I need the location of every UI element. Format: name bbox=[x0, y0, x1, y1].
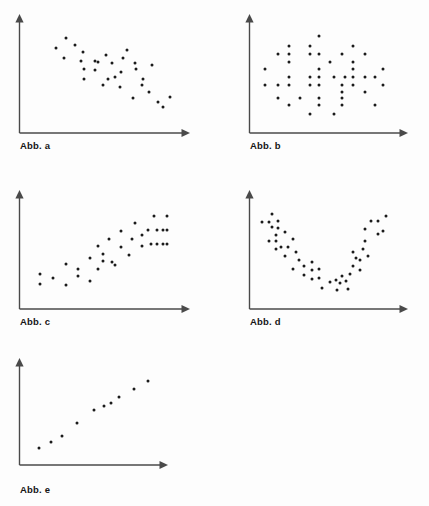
data-point bbox=[280, 246, 283, 249]
data-point bbox=[102, 83, 105, 86]
data-point bbox=[352, 68, 355, 71]
data-point bbox=[277, 83, 280, 86]
data-point bbox=[96, 268, 99, 271]
data-point bbox=[333, 75, 336, 78]
panel-caption-a: Abb. a bbox=[20, 140, 50, 151]
data-point bbox=[277, 52, 280, 55]
data-point bbox=[274, 234, 277, 237]
data-point bbox=[102, 259, 105, 262]
scatter-plot-panel-a bbox=[18, 14, 190, 133]
data-point bbox=[274, 248, 277, 251]
data-point bbox=[333, 112, 336, 115]
data-point bbox=[161, 228, 164, 231]
data-point bbox=[369, 219, 372, 222]
data-point bbox=[341, 83, 344, 86]
data-point bbox=[308, 83, 311, 86]
scatter-plot-panel-e bbox=[18, 358, 168, 465]
data-point bbox=[169, 96, 172, 99]
data-point bbox=[89, 256, 92, 259]
data-point bbox=[267, 220, 270, 223]
data-point bbox=[38, 283, 41, 286]
data-point bbox=[359, 258, 362, 261]
data-point bbox=[284, 230, 287, 233]
data-point bbox=[132, 97, 135, 100]
data-point bbox=[288, 104, 291, 107]
data-point bbox=[83, 68, 86, 71]
data-point bbox=[308, 44, 311, 47]
data-point bbox=[49, 440, 52, 443]
data-point bbox=[345, 280, 348, 283]
data-point bbox=[80, 60, 83, 63]
data-point bbox=[346, 287, 349, 290]
data-point bbox=[267, 240, 270, 243]
data-point bbox=[288, 75, 291, 78]
data-point bbox=[341, 90, 344, 93]
data-point bbox=[102, 405, 105, 408]
data-point bbox=[166, 243, 169, 246]
data-point bbox=[110, 401, 113, 404]
data-point bbox=[318, 52, 321, 55]
data-point bbox=[166, 215, 169, 218]
data-point bbox=[114, 75, 117, 78]
data-point bbox=[132, 387, 135, 390]
data-point bbox=[318, 35, 321, 38]
data-point bbox=[133, 221, 136, 224]
data-point bbox=[382, 83, 385, 86]
data-point bbox=[161, 106, 164, 109]
data-point bbox=[261, 220, 264, 223]
data-point bbox=[263, 68, 266, 71]
data-point bbox=[93, 69, 96, 72]
data-point bbox=[329, 281, 332, 284]
data-point bbox=[108, 238, 111, 241]
data-point bbox=[318, 104, 321, 107]
data-point bbox=[318, 268, 321, 271]
data-point bbox=[318, 83, 321, 86]
data-point bbox=[338, 282, 341, 285]
data-points-layer-c bbox=[18, 190, 190, 309]
data-points-layer-b bbox=[248, 14, 408, 133]
data-points-layer-a bbox=[18, 14, 190, 133]
data-point bbox=[364, 52, 367, 55]
data-point bbox=[297, 258, 300, 261]
data-point bbox=[146, 379, 149, 382]
scatter-plot-panel-b bbox=[248, 14, 408, 133]
data-points-layer-d bbox=[248, 190, 408, 309]
data-point bbox=[334, 279, 337, 282]
data-point bbox=[120, 229, 123, 232]
data-point bbox=[318, 97, 321, 100]
data-point bbox=[74, 43, 77, 46]
data-point bbox=[52, 277, 55, 280]
scatter-plot-panel-c bbox=[18, 190, 190, 309]
data-point bbox=[38, 273, 41, 276]
data-point bbox=[263, 83, 266, 86]
data-point bbox=[135, 68, 138, 71]
data-point bbox=[308, 112, 311, 115]
data-point bbox=[111, 62, 114, 65]
data-point bbox=[55, 46, 58, 49]
data-point bbox=[76, 421, 79, 424]
data-point bbox=[352, 250, 355, 253]
data-point bbox=[382, 68, 385, 71]
data-point bbox=[155, 243, 158, 246]
data-point bbox=[140, 234, 143, 237]
data-point bbox=[120, 71, 123, 74]
data-point bbox=[277, 219, 280, 222]
data-point bbox=[61, 435, 64, 438]
data-point bbox=[320, 286, 323, 289]
data-point bbox=[284, 254, 287, 257]
data-point bbox=[344, 75, 347, 78]
data-point bbox=[77, 275, 80, 278]
data-points-layer-e bbox=[18, 358, 168, 465]
data-point bbox=[126, 48, 129, 51]
data-point bbox=[277, 97, 280, 100]
data-point bbox=[286, 246, 289, 249]
data-point bbox=[341, 275, 344, 278]
data-point bbox=[364, 90, 367, 93]
data-point bbox=[303, 274, 306, 277]
data-point bbox=[102, 252, 105, 255]
data-point bbox=[121, 56, 124, 59]
panel-caption-d: Abb. d bbox=[250, 316, 281, 327]
data-point bbox=[367, 254, 370, 257]
data-point bbox=[277, 226, 280, 229]
data-point bbox=[311, 269, 314, 272]
